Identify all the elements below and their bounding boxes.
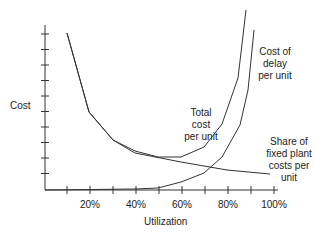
fixed-plant-line-3: costs per xyxy=(262,160,315,172)
delay-cost-line-1: Cost of xyxy=(250,46,300,58)
x-tick-80: 80% xyxy=(218,199,238,210)
fixed-plant-annotation: Share of fixed plant costs per unit xyxy=(262,136,315,184)
fixed-plant-line-1: Share of xyxy=(262,136,315,148)
total-cost-annotation: Total cost per unit xyxy=(176,107,226,143)
x-tick-60: 60% xyxy=(172,199,192,210)
y-axis xyxy=(41,25,49,190)
delay-cost-annotation: Cost of delay per unit xyxy=(250,46,300,82)
delay-cost-line-2: delay xyxy=(250,58,300,70)
fixed-plant-line-2: fixed plant xyxy=(262,148,315,160)
x-axis-label: Utilization xyxy=(144,216,187,228)
total-cost-line-1: Total xyxy=(176,107,226,119)
fixed-plant-line-4: unit xyxy=(262,172,315,184)
y-axis-label: Cost xyxy=(10,100,31,112)
x-tick-40: 40% xyxy=(126,199,146,210)
total-cost-line-2: cost xyxy=(176,119,226,131)
fixed-plant-share-curve xyxy=(67,33,270,174)
x-tick-100: 100% xyxy=(261,199,287,210)
total-cost-line-3: per unit xyxy=(176,131,226,143)
delay-cost-line-3: per unit xyxy=(250,70,300,82)
x-tick-20: 20% xyxy=(80,199,100,210)
